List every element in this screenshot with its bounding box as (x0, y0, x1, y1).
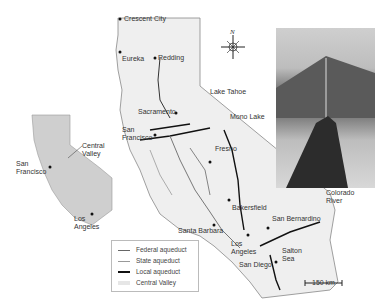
city-label: Fresno (215, 145, 237, 153)
legend-label: Federal aqueduct (136, 246, 187, 253)
legend-label: State aqueduct (136, 257, 180, 264)
legend-label: Local aqueduct (136, 268, 180, 275)
scale-label: 150 km (312, 279, 335, 287)
city-label: Eureka (122, 55, 144, 63)
legend-label: Central Valley (136, 279, 176, 286)
inset-label: San Francisco (16, 160, 50, 176)
map-legend: Federal aqueduct State aqueduct Local aq… (111, 240, 199, 292)
city-label: Santa Barbara (178, 227, 223, 235)
city-label: Bakersfield (232, 204, 267, 212)
city-label: Los Angeles (231, 240, 267, 256)
city-label: Mono Lake (230, 113, 265, 121)
city-label: Crescent City (124, 15, 166, 23)
city-label: Sacramento (138, 108, 176, 116)
lake-label: Salton Sea (282, 247, 312, 263)
scale-bar: 150 km (304, 272, 344, 290)
compass-north-label: N (230, 28, 235, 36)
compass-rose-icon (221, 35, 245, 59)
inset-label: Los Angeles (74, 215, 104, 231)
inset-label: Central Valley (82, 142, 112, 158)
city-label: San Bernardino (272, 215, 322, 223)
aqueduct-photo (276, 28, 375, 188)
city-label: Lake Tahoe (210, 88, 246, 96)
river-label: Colorado River (326, 189, 366, 205)
city-label: Redding (158, 54, 184, 62)
city-label: San Francisco (122, 126, 156, 142)
city-label: San Diego (239, 261, 272, 269)
